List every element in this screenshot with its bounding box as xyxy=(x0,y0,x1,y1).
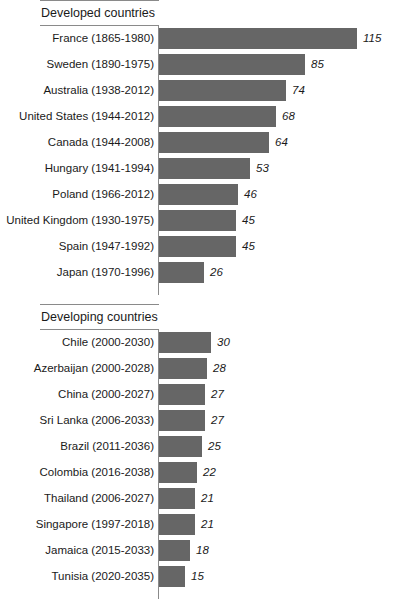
bar-value-label: 28 xyxy=(213,361,226,376)
bar xyxy=(159,540,190,561)
bar-value-label: 25 xyxy=(208,439,221,454)
bar xyxy=(159,462,197,483)
bar xyxy=(159,54,305,75)
bar-value-label: 15 xyxy=(191,569,204,584)
bar-value-label: 85 xyxy=(311,57,324,72)
bar-category-label: Tunisia (2020-2035) xyxy=(52,569,160,584)
bar-row: Jamaica (2015-2033)18 xyxy=(159,538,409,564)
bar-value-label: 68 xyxy=(282,109,295,124)
bar-value-label: 45 xyxy=(242,239,255,254)
bar-value-label: 27 xyxy=(211,413,224,428)
bar-value-label: 53 xyxy=(256,161,269,176)
bar-row: Japan (1970-1996)26 xyxy=(159,260,409,286)
bar xyxy=(159,262,204,283)
bar-row: Australia (1938-2012)74 xyxy=(159,78,409,104)
group-header-developed: Developed countries xyxy=(40,0,159,26)
bar-row: Hungary (1941-1994)53 xyxy=(159,156,409,182)
bar xyxy=(159,106,276,127)
bar-category-label: Japan (1970-1996) xyxy=(57,265,159,280)
bar-row: Colombia (2016-2038)22 xyxy=(159,460,409,486)
bar xyxy=(159,358,207,379)
axis-line-tail xyxy=(159,590,409,599)
group-spacer xyxy=(0,295,409,304)
bar xyxy=(159,236,236,257)
bar-category-label: Colombia (2016-2038) xyxy=(40,465,159,480)
bar xyxy=(159,566,185,587)
bar-category-label: Chile (2000-2030) xyxy=(62,335,159,350)
bar-category-label: Spain (1947-1992) xyxy=(59,239,159,254)
bar-category-label: Sweden (1890-1975) xyxy=(47,57,159,72)
bar-row: Poland (1966-2012)46 xyxy=(159,182,409,208)
bar-category-label: Azerbaijan (2000-2028) xyxy=(34,361,159,376)
bar xyxy=(159,28,357,49)
bar-category-label: Hungary (1941-1994) xyxy=(45,161,159,176)
group-title: Developed countries xyxy=(41,5,155,22)
bar xyxy=(159,132,269,153)
bar xyxy=(159,384,205,405)
bar-value-label: 26 xyxy=(210,265,223,280)
bar-row: United Kingdom (1930-1975)45 xyxy=(159,208,409,234)
bar-category-label: Australia (1938-2012) xyxy=(43,83,159,98)
bar xyxy=(159,184,238,205)
bar-category-label: Jamaica (2015-2033) xyxy=(45,543,159,558)
bar xyxy=(159,436,202,457)
bar xyxy=(159,210,236,231)
bar-value-label: 27 xyxy=(211,387,224,402)
group-title: Developing countries xyxy=(41,309,158,326)
bar-category-label: France (1865-1980) xyxy=(52,31,159,46)
bar-category-label: Brazil (2011-2036) xyxy=(60,439,159,454)
bar-value-label: 18 xyxy=(196,543,209,558)
bar-row: France (1865-1980)115 xyxy=(159,26,409,52)
bar xyxy=(159,158,250,179)
axis-line-tail xyxy=(159,286,409,295)
bar-category-label: Poland (1966-2012) xyxy=(52,187,159,202)
bar-row: Canada (1944-2008)64 xyxy=(159,130,409,156)
bar-value-label: 45 xyxy=(242,213,255,228)
bar-row: Sri Lanka (2006-2033)27 xyxy=(159,408,409,434)
bar-row: Spain (1947-1992)45 xyxy=(159,234,409,260)
bar-category-label: China (2000-2027) xyxy=(58,387,159,402)
bar-group: France (1865-1980)115Sweden (1890-1975)8… xyxy=(158,26,409,295)
bar-value-label: 21 xyxy=(201,491,214,506)
bar xyxy=(159,80,286,101)
bar-category-label: Sri Lanka (2006-2033) xyxy=(40,413,159,428)
bar-row: Chile (2000-2030)30 xyxy=(159,330,409,356)
bar-row: United States (1944-2012)68 xyxy=(159,104,409,130)
bar-row: Brazil (2011-2036)25 xyxy=(159,434,409,460)
bar-group: Chile (2000-2030)30Azerbaijan (2000-2028… xyxy=(158,330,409,599)
bar-row: Thailand (2006-2027)21 xyxy=(159,486,409,512)
bar xyxy=(159,514,195,535)
bar-category-label: United Kingdom (1930-1975) xyxy=(6,213,159,228)
bar xyxy=(159,488,195,509)
bar-row: Azerbaijan (2000-2028)28 xyxy=(159,356,409,382)
bar-value-label: 64 xyxy=(275,135,288,150)
bar-category-label: Singapore (1997-2018) xyxy=(36,517,159,532)
bar-value-label: 115 xyxy=(363,31,381,46)
bar-value-label: 30 xyxy=(217,335,230,350)
bar xyxy=(159,410,205,431)
bar-value-label: 74 xyxy=(292,83,305,98)
bar-value-label: 46 xyxy=(244,187,257,202)
bar-category-label: United States (1944-2012) xyxy=(19,109,159,124)
bar-category-label: Thailand (2006-2027) xyxy=(44,491,159,506)
group-header-developing: Developing countries xyxy=(40,304,159,330)
bar-row: China (2000-2027)27 xyxy=(159,382,409,408)
bar-category-label: Canada (1944-2008) xyxy=(48,135,159,150)
bar xyxy=(159,332,211,353)
bar-value-label: 22 xyxy=(203,465,216,480)
bar-row: Singapore (1997-2018)21 xyxy=(159,512,409,538)
bar-row: Tunisia (2020-2035)15 xyxy=(159,564,409,590)
bar-value-label: 21 xyxy=(201,517,214,532)
bar-row: Sweden (1890-1975)85 xyxy=(159,52,409,78)
